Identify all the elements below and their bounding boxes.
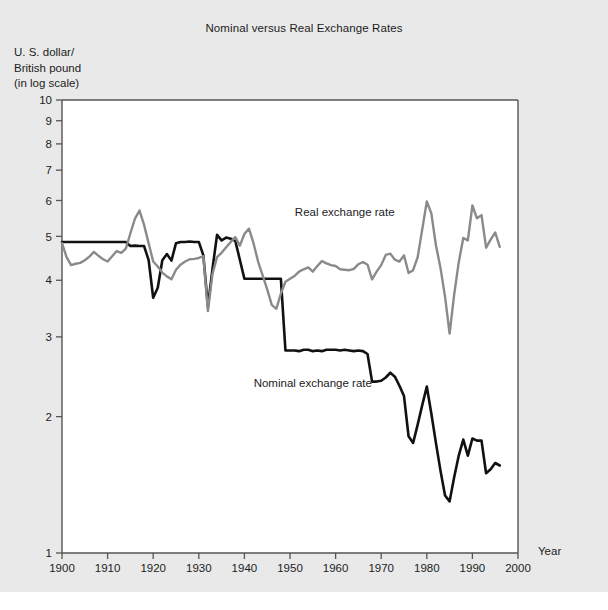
x-tick-label: 1950 [277,562,303,574]
x-tick-label: 1990 [460,562,486,574]
y-tick-label: 6 [46,195,52,207]
y-tick-label: 5 [46,231,52,243]
y-tick-label: 1 [46,547,52,559]
series-annotation-label: Real exchange rate [295,206,395,218]
y-tick-label: 2 [46,411,52,423]
y-tick-label: 9 [46,115,52,127]
x-axis-ticks: 1900191019201930194019501960197019801990… [49,553,531,574]
y-tick-label: 3 [46,331,52,343]
y-tick-label: 8 [46,138,52,150]
series-annotation-label: Nominal exchange rate [254,377,372,389]
x-tick-label: 1960 [323,562,349,574]
y-tick-label: 7 [46,164,52,176]
x-tick-label: 1940 [232,562,258,574]
x-tick-label: 1920 [140,562,166,574]
y-tick-label: 10 [39,94,52,106]
y-tick-label: 4 [46,274,53,286]
x-tick-label: 1900 [49,562,75,574]
x-tick-label: 2000 [505,562,531,574]
x-tick-label: 1930 [186,562,212,574]
y-axis-ticks: 12345678910 [39,94,62,559]
x-tick-label: 1980 [414,562,440,574]
x-tick-label: 1970 [368,562,394,574]
chart-plot: 12345678910 1900191019201930194019501960… [0,0,608,610]
x-tick-label: 1910 [95,562,121,574]
